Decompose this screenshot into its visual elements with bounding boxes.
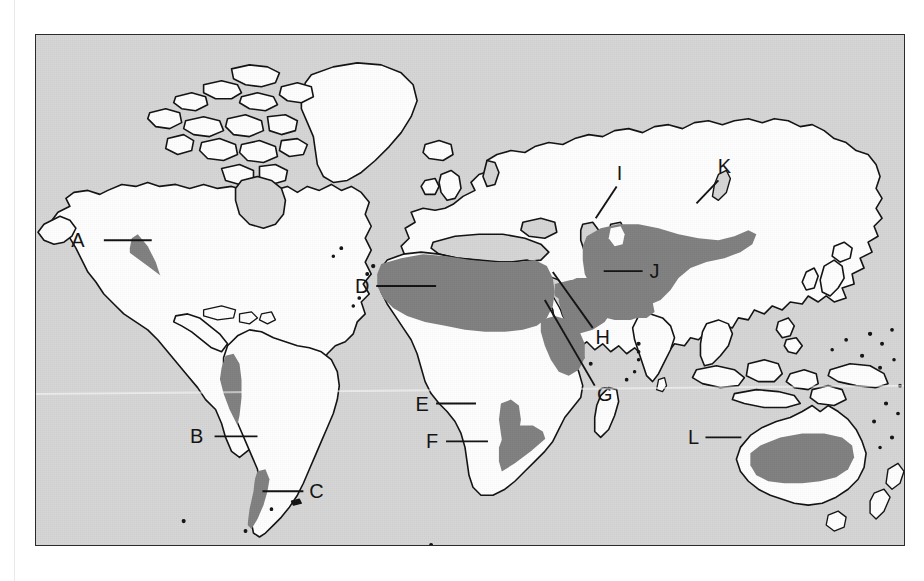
label-d: D <box>355 275 369 297</box>
label-e: E <box>415 393 428 415</box>
land-hokkaido <box>832 242 852 262</box>
land-tasmania <box>826 511 846 531</box>
label-b: B <box>190 425 203 447</box>
world-map-svg: A B C D E <box>36 35 904 545</box>
label-f: F <box>426 430 438 452</box>
label-g: G <box>597 383 613 405</box>
world-map-figure: A B C D E <box>35 34 905 546</box>
page-canvas: A B C D E <box>0 0 924 581</box>
label-j: J <box>650 260 660 282</box>
page-gutter-line <box>14 0 15 581</box>
label-l: L <box>688 426 699 448</box>
label-k: K <box>718 155 732 177</box>
label-h: H <box>595 326 609 348</box>
label-c: C <box>309 480 323 502</box>
water-black-sea <box>521 218 557 238</box>
land-iceland <box>423 141 453 161</box>
label-a: A <box>71 229 85 251</box>
label-i: I <box>617 162 623 184</box>
